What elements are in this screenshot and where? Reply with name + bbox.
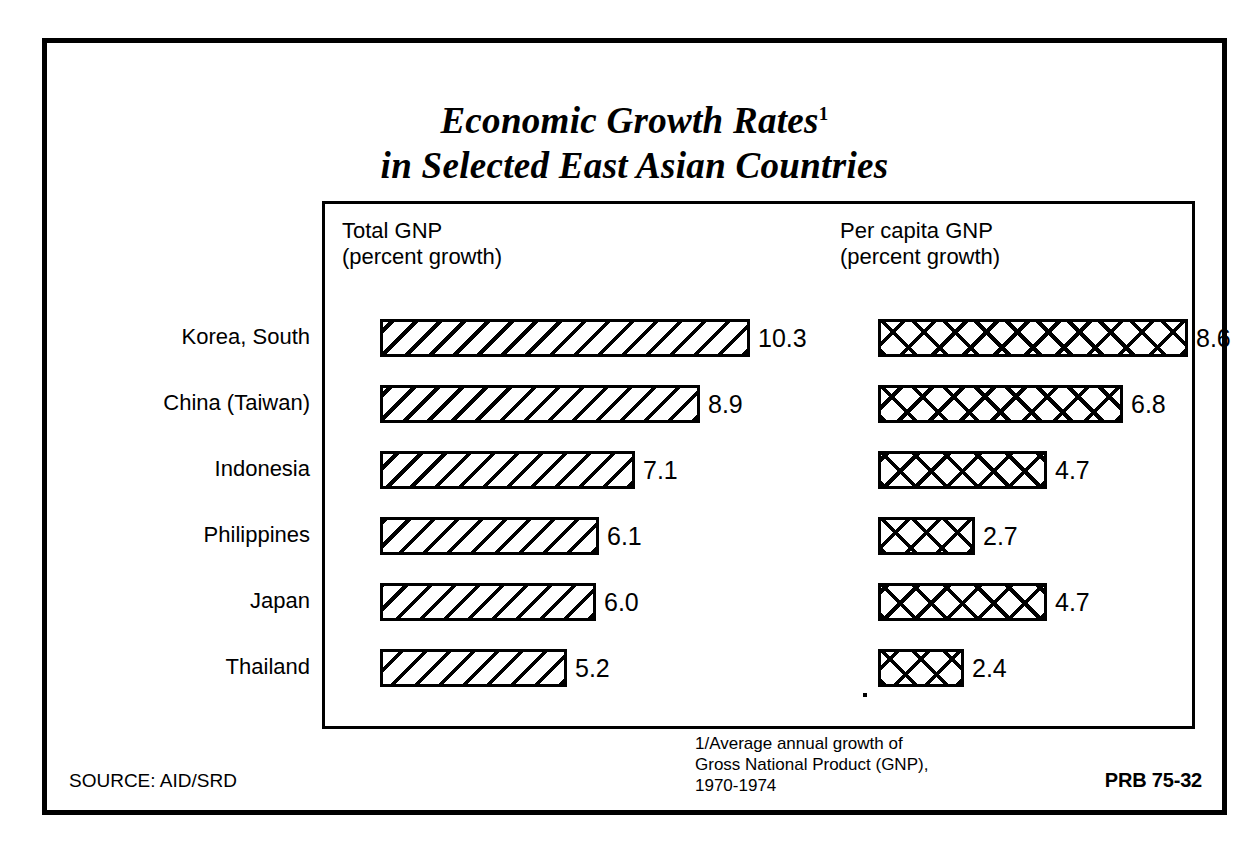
bar-total-korea-south [380,319,750,357]
bar-value-total-korea-south: 10.3 [758,324,807,353]
footnote-text: 1/Average annual growth of Gross Nationa… [695,733,928,796]
bar-value-total-thailand: 5.2 [575,654,610,683]
series-header-total-gnp: Total GNP (percent growth) [342,218,502,270]
bar-row-percapita-china-taiwan: 6.8 [878,382,1166,426]
bar-value-total-philippines: 6.1 [607,522,642,551]
bar-value-percapita-korea-south: 8.6 [1196,324,1231,353]
bar-row-total-china-taiwan: 8.9 [380,382,743,426]
bar-row-percapita-philippines: 2.7 [878,514,1018,558]
bar-value-total-japan: 6.0 [604,588,639,617]
category-label-philippines: Philippines [107,513,319,579]
bar-total-japan [380,583,596,621]
plot-area-frame: Total GNP (percent growth) Per capita GN… [322,201,1195,729]
bar-total-china-taiwan [380,385,700,423]
bar-row-total-philippines: 6.1 [380,514,642,558]
bar-percapita-indonesia [878,451,1047,489]
bar-value-percapita-indonesia: 4.7 [1055,456,1090,485]
bar-value-percapita-philippines: 2.7 [983,522,1018,551]
bar-total-indonesia [380,451,635,489]
chart-outer-frame: Economic Growth Rates1 in Selected East … [42,38,1227,815]
bar-total-thailand [380,649,567,687]
bar-value-total-china-taiwan: 8.9 [708,390,743,419]
bar-percapita-korea-south [878,319,1188,357]
bar-row-total-indonesia: 7.1 [380,448,678,492]
title-line-1-text: Economic Growth Rates [440,100,818,141]
title-line-1: Economic Growth Rates1 [47,98,1222,143]
bar-value-percapita-china-taiwan: 6.8 [1131,390,1166,419]
bar-value-percapita-thailand: 2.4 [972,654,1007,683]
category-label-thailand: Thailand [107,645,319,711]
title-line-2: in Selected East Asian Countries [47,143,1222,188]
title-footnote-marker: 1 [819,102,829,123]
bar-row-total-thailand: 5.2 [380,646,610,690]
bar-row-percapita-japan: 4.7 [878,580,1090,624]
bar-row-percapita-korea-south: 8.6 [878,316,1231,360]
category-axis-labels: Korea, South China (Taiwan) Indonesia Ph… [107,315,319,711]
bar-value-percapita-japan: 4.7 [1055,588,1090,617]
bar-percapita-philippines [878,517,975,555]
bar-row-percapita-indonesia: 4.7 [878,448,1090,492]
category-label-korea-south: Korea, South [107,315,319,381]
bar-percapita-china-taiwan [878,385,1123,423]
bar-total-philippines [380,517,599,555]
category-label-china-taiwan: China (Taiwan) [107,381,319,447]
category-label-japan: Japan [107,579,319,645]
publication-code: PRB 75-32 [1105,769,1202,792]
bar-value-total-indonesia: 7.1 [643,456,678,485]
bar-row-total-korea-south: 10.3 [380,316,807,360]
bar-row-total-japan: 6.0 [380,580,639,624]
series-header-per-capita-gnp: Per capita GNP (percent growth) [840,218,1000,270]
scan-speck-artifact [863,693,867,697]
source-note: SOURCE: AID/SRD [69,770,237,792]
page-title: Economic Growth Rates1 in Selected East … [47,98,1222,188]
bar-row-percapita-thailand: 2.4 [878,646,1007,690]
bar-percapita-thailand [878,649,964,687]
bar-percapita-japan [878,583,1047,621]
category-label-indonesia: Indonesia [107,447,319,513]
